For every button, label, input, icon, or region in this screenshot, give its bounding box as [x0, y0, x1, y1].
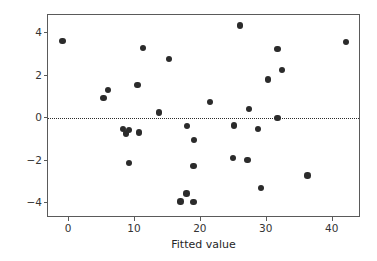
- scatter-point: [140, 45, 146, 51]
- plot-data-area: [48, 15, 359, 216]
- x-axis-label: Fitted value: [47, 238, 360, 251]
- scatter-point: [136, 129, 142, 135]
- scatter-point: [274, 46, 280, 52]
- y-tick-mark: [44, 202, 48, 203]
- x-tick-label: 40: [325, 222, 338, 234]
- y-tick-label: 0: [35, 111, 42, 123]
- scatter-point: [265, 76, 271, 82]
- scatter-point: [190, 163, 196, 169]
- y-tick-label: 2: [35, 69, 42, 81]
- scatter-point: [59, 38, 65, 44]
- scatter-point: [134, 82, 140, 88]
- y-tick-label: −4: [27, 196, 42, 208]
- scatter-point: [126, 160, 132, 166]
- x-tick-mark: [134, 217, 135, 221]
- scatter-point: [274, 115, 280, 121]
- scatter-point: [166, 56, 172, 62]
- scatter-point: [207, 99, 213, 105]
- scatter-point: [184, 123, 190, 129]
- y-tick-mark: [44, 160, 48, 161]
- residuals-vs-fitted-scatter-plot: 010203040 −4−2024 Fitted value Residuals: [0, 0, 377, 261]
- scatter-point: [246, 106, 252, 112]
- scatter-point: [343, 39, 349, 45]
- x-tick-label: 10: [127, 222, 140, 234]
- scatter-point: [177, 198, 183, 204]
- scatter-point: [255, 126, 261, 132]
- y-tick-label: −2: [27, 154, 42, 166]
- x-tick-label: 0: [65, 222, 72, 234]
- zero-reference-line: [48, 118, 359, 119]
- scatter-point: [231, 122, 237, 128]
- x-tick-mark: [68, 217, 69, 221]
- scatter-point: [190, 199, 196, 205]
- scatter-point: [244, 157, 250, 163]
- scatter-point: [191, 137, 197, 143]
- scatter-point: [100, 95, 106, 101]
- x-tick-mark: [332, 217, 333, 221]
- x-tick-mark: [200, 217, 201, 221]
- y-tick-mark: [44, 117, 48, 118]
- scatter-point: [304, 172, 310, 178]
- x-tick-label: 20: [193, 222, 206, 234]
- x-tick-mark: [266, 217, 267, 221]
- y-tick-mark: [44, 75, 48, 76]
- y-tick-mark: [44, 32, 48, 33]
- scatter-point: [279, 67, 285, 73]
- scatter-point: [230, 155, 236, 161]
- scatter-point: [105, 87, 111, 93]
- y-tick-label: 4: [35, 26, 42, 38]
- scatter-point: [258, 185, 264, 191]
- scatter-point: [126, 127, 132, 133]
- plot-axes-frame: [47, 14, 360, 217]
- scatter-point: [237, 22, 243, 28]
- scatter-point: [156, 109, 162, 115]
- x-tick-label: 30: [259, 222, 272, 234]
- scatter-point: [183, 190, 189, 196]
